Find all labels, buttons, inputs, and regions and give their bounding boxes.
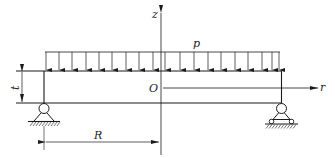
right-roller-support <box>265 104 298 129</box>
left-pinned-support <box>28 104 60 127</box>
radius-dimension: R <box>44 126 159 150</box>
thickness-dimension: t <box>9 72 22 102</box>
load-arrows <box>46 52 279 70</box>
thickness-label: t <box>9 85 22 90</box>
origin-label: O <box>149 82 158 95</box>
r-axis: r O <box>149 81 326 95</box>
plate-diagram: z p <box>0 0 335 158</box>
load-label: p <box>193 37 200 50</box>
distributed-load: p <box>45 37 280 70</box>
r-axis-label: r <box>320 81 326 94</box>
radius-label: R <box>93 129 102 142</box>
z-axis-label: z <box>151 8 158 21</box>
